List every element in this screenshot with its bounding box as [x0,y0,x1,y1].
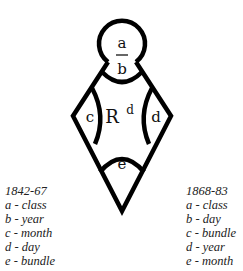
legend-item: a - class [186,198,236,212]
legend-item: e - bundle [5,254,55,268]
label-center: R [105,106,119,127]
legend-1868-83: 1868-83 a - class b - day c - bundle d -… [186,184,236,268]
legend-item: b - day [186,212,236,226]
label-e: e [118,155,127,173]
label-c: c [86,108,94,126]
label-b: b [117,60,127,78]
legend-item: c - month [5,226,55,240]
legend-title: 1842-67 [5,184,55,198]
legend-item: d - year [186,240,236,254]
legend-item: e - month [186,254,236,268]
legend-item: d - day [5,240,55,254]
legend-item: c - bundle [186,226,236,240]
legend-item: a - class [5,198,55,212]
label-center-superscript: d [126,103,134,117]
legend-title: 1868-83 [186,184,236,198]
label-a: a [118,34,127,52]
label-d: d [151,108,161,126]
legend-1842-67: 1842-67 a - class b - year c - month d -… [5,184,55,268]
legend-item: b - year [5,212,55,226]
